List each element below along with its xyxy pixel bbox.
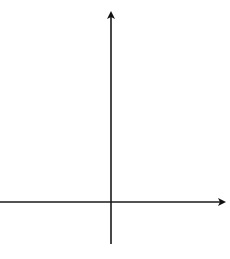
- graph-canvas: [0, 0, 230, 259]
